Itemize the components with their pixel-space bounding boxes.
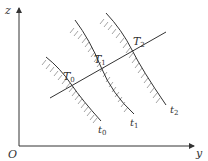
z-axis-label: z	[4, 4, 11, 17]
axes	[19, 8, 194, 146]
origin-label: O	[8, 148, 17, 161]
hatch-t2	[100, 19, 160, 103]
diagram-canvas: z O y	[0, 0, 208, 161]
hatching	[42, 19, 160, 123]
label-T0: T0	[63, 70, 75, 84]
label-T2: T2	[133, 35, 145, 49]
y-axis-label: y	[195, 147, 203, 160]
label-t1: t1	[130, 117, 139, 130]
label-t0: t0	[98, 124, 107, 137]
curve-t0	[46, 57, 101, 121]
label-t2: t2	[170, 104, 179, 117]
label-T1: T1	[94, 53, 106, 67]
ray-line	[50, 32, 166, 98]
curve-t2	[106, 13, 166, 105]
curves	[46, 13, 166, 121]
